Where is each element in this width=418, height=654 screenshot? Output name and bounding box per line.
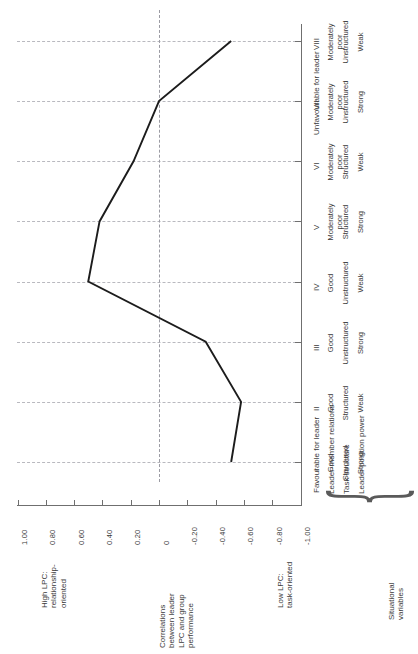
cell-leader-position-power-IV: Weak <box>357 254 366 312</box>
cell-task-structure-VI: Structured <box>342 133 351 191</box>
octant-label-VIII: VIII <box>312 38 321 50</box>
value-tick-1.00 <box>18 500 19 506</box>
cell-leader-member-relations-IV: Good <box>327 254 336 312</box>
cell-task-structure-VII: Unstructured <box>342 73 351 131</box>
value-tick-label-0.20: 0.20 <box>134 530 143 545</box>
situational-variables-group-label: Situationalvariables <box>387 525 406 620</box>
octant-tick-VII <box>295 101 301 102</box>
axis-title-high-lpc: High LPC:relationship-oriented <box>40 478 68 608</box>
cell-leader-position-power-VII: Strong <box>357 73 366 131</box>
octant-tick-II <box>295 402 301 403</box>
value-tick-0.60 <box>74 500 75 506</box>
axis-title-correlations: Correlationsbetween leaderLPC and groupp… <box>158 498 196 648</box>
brace-icon: { <box>318 487 414 506</box>
value-tick--0.60 <box>244 500 245 506</box>
cell-task-structure-III: Unstructured <box>342 314 351 372</box>
octant-tick-VIII <box>295 41 301 42</box>
cell-leader-position-power-VI: Weak <box>357 133 366 191</box>
value-tick-0.20 <box>131 500 132 506</box>
octant-label-V: V <box>312 225 321 230</box>
favourable-for-leader-label: Favourable for leader <box>312 417 321 493</box>
octant-label-IV: IV <box>312 283 321 291</box>
octant-label-III: III <box>312 344 321 351</box>
value-tick-label-0.40: 0.40 <box>106 530 115 545</box>
unfavourable-for-leader-label: Unfavourable for leader <box>312 51 321 135</box>
octant-tick-I <box>295 462 301 463</box>
axis-title-low-lpc: Low LPC:task-oriented <box>276 478 295 608</box>
category-axis-line <box>301 24 302 506</box>
octant-tick-VI <box>295 161 301 162</box>
value-tick-label--0.60: -0.60 <box>247 527 256 545</box>
cell-leader-member-relations-III: Good <box>327 314 336 372</box>
cell-task-structure-IV: Unstructured <box>342 254 351 312</box>
value-tick-label-1.00: 1.00 <box>21 530 30 545</box>
series-line <box>88 41 241 462</box>
cell-leader-position-power-V: Strong <box>357 193 366 251</box>
cell-leader-position-power-VIII: Weak <box>357 13 366 71</box>
value-tick-label--1.00: -1.00 <box>304 527 313 545</box>
cell-task-structure-II: Structured <box>342 374 351 432</box>
value-tick-label--0.40: -0.40 <box>219 527 228 545</box>
value-tick--0.40 <box>216 500 217 506</box>
cell-leader-position-power-III: Strong <box>357 314 366 372</box>
row-label-leader-member-relations: Leader-member relations <box>327 405 336 494</box>
row-label-leader-position-power: Leader position power <box>357 415 366 494</box>
cell-task-structure-VIII: Unstructured <box>342 13 351 71</box>
value-tick-label-0.60: 0.60 <box>78 530 87 545</box>
cell-task-structure-V: Structured <box>342 193 351 251</box>
octant-label-VI: VI <box>312 163 321 171</box>
octant-tick-V <box>295 221 301 222</box>
octant-tick-III <box>295 342 301 343</box>
value-tick-0.40 <box>102 500 103 506</box>
octant-tick-IV <box>295 282 301 283</box>
octant-label-II: II <box>312 406 321 410</box>
value-tick--0.80 <box>272 500 273 506</box>
